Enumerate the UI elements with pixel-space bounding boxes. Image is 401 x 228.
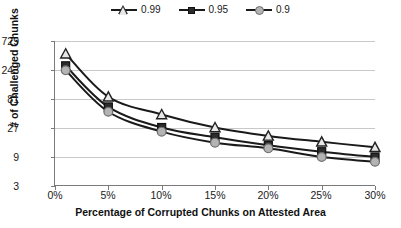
data-point-0.9-20 [264, 144, 273, 153]
ytick-label-9: 9 [0, 152, 19, 163]
x-tick-0 [55, 186, 56, 190]
xtick-label-30: 30% [355, 190, 395, 201]
plot-area [55, 41, 375, 186]
data-point-0.9-5 [104, 107, 113, 116]
data-point-0.9-25 [317, 153, 326, 162]
chart-legend: 0.99 0.95 0.9 [0, 4, 401, 16]
xtick-label-0: 0% [35, 190, 75, 201]
legend-label-2: 0.9 [276, 5, 290, 15]
data-point-0.99-1 [61, 49, 71, 58]
data-point-0.9-15 [211, 138, 220, 147]
data-point-0.9-1 [61, 66, 70, 75]
legend-item-2[interactable]: 0.9 [246, 4, 290, 16]
legend-label-0: 0.99 [141, 5, 160, 15]
legend-key-triangle [111, 4, 137, 16]
ytick-label-3: 3 [0, 181, 19, 192]
legend-item-0[interactable]: 0.99 [111, 4, 160, 16]
series-layer [55, 41, 375, 186]
line-chart: 0.99 0.95 0.9 729 243 81 27 9 3 0% 5% 10… [0, 0, 401, 228]
x-tick-15 [215, 186, 216, 190]
x-axis-title: Percentage of Corrupted Chunks on Attest… [0, 206, 401, 218]
x-tick-10 [162, 186, 163, 190]
xtick-label-10: 10% [141, 190, 181, 201]
legend-key-circle [246, 4, 272, 16]
xtick-label-20: 20% [248, 190, 288, 201]
series-line-0.9 [66, 70, 375, 161]
legend-label-1: 0.95 [209, 5, 228, 15]
data-point-0.9-30 [371, 157, 380, 166]
data-point-0.9-10 [157, 127, 166, 136]
legend-key-square [179, 4, 205, 16]
x-tick-25 [322, 186, 323, 190]
y-axis-title: # of Challenged Chunks [8, 0, 20, 138]
x-tick-5 [108, 186, 109, 190]
xtick-label-5: 5% [88, 190, 128, 201]
xtick-label-25: 25% [301, 190, 341, 201]
legend-item-1[interactable]: 0.95 [179, 4, 228, 16]
xtick-label-15: 15% [195, 190, 235, 201]
x-tick-20 [268, 186, 269, 190]
x-tick-30 [375, 186, 376, 190]
